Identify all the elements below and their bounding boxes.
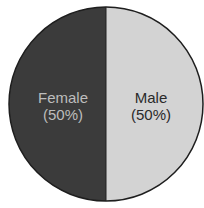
male-label: Male	[135, 89, 168, 106]
male-pct: (50%)	[131, 106, 171, 123]
female-pct: (50%)	[43, 106, 83, 123]
pie-chart: Female (50%) Male (50%)	[0, 0, 204, 208]
female-label: Female	[38, 89, 88, 106]
